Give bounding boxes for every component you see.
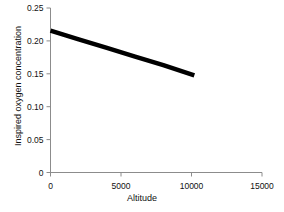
- chart-figure: 00.050.100.150.200.25 050001000015000 Al…: [0, 0, 284, 212]
- axis-spines: [50, 8, 262, 173]
- x-axis-title: Altitude: [0, 194, 284, 203]
- data-series-group: [51, 31, 195, 76]
- x-tick-label: 5000: [112, 182, 131, 191]
- x-tick-marks: [51, 173, 263, 177]
- x-tick-label: 15000: [250, 182, 274, 191]
- y-axis-title: Inspired oxygen concentration: [12, 0, 24, 172]
- x-tick-label: 10000: [180, 182, 204, 191]
- x-tick-label: 0: [48, 182, 53, 191]
- data-line: [51, 31, 195, 76]
